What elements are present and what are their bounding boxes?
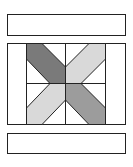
quilt-block-diagram (0, 0, 133, 167)
top-border-strip (8, 15, 126, 36)
bottom-border-strip (8, 134, 126, 154)
